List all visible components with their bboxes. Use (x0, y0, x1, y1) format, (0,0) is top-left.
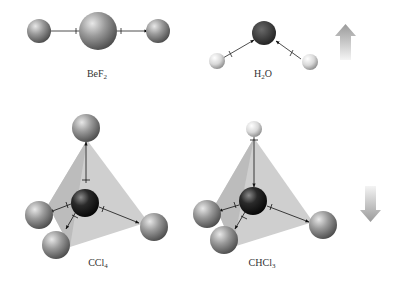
chlorine-atom-right (140, 213, 168, 241)
chlorine-atom-left (25, 201, 53, 229)
h2o-molecule (209, 21, 318, 70)
chcl3-molecule (193, 121, 337, 254)
chcl3-label: CHCl3 (249, 257, 276, 270)
net-dipole-up-arrow (335, 24, 356, 60)
chlorine-atom-left (193, 200, 221, 228)
chlorine-atom-bottom (42, 231, 70, 259)
hydrogen-atom-right (302, 54, 318, 70)
fluorine-atom-right (146, 19, 170, 43)
bond-dipole-arrow-left (223, 40, 254, 58)
carbon-atom (239, 187, 267, 215)
beryllium-atom (79, 12, 117, 50)
bef2-molecule (27, 12, 170, 50)
fluorine-atom-left (27, 19, 51, 43)
bond-dipole-arrow-right (276, 41, 301, 59)
hydrogen-atom (246, 121, 262, 137)
h2o-label: H2O (254, 68, 272, 81)
hydrogen-atom-left (209, 53, 225, 69)
chlorine-atom-right (309, 211, 337, 239)
molecule-diagram (0, 0, 394, 283)
carbon-atom (71, 189, 99, 217)
ccl4-label: CCl4 (88, 257, 108, 270)
chlorine-atom-top (72, 114, 100, 142)
net-dipole-down-arrow (360, 186, 381, 222)
chlorine-atom-bottom (210, 226, 238, 254)
oxygen-atom (252, 21, 276, 45)
ccl4-molecule (25, 114, 168, 259)
bef2-label: BeF2 (87, 68, 107, 81)
